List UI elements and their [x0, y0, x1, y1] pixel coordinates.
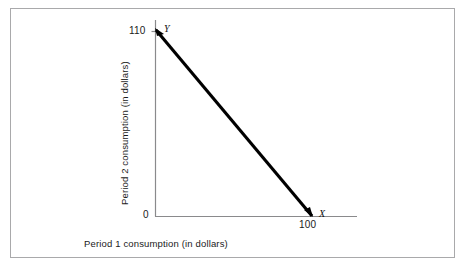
x-axis-title-wrapper: Period 1 consumption (in dollars): [0, 238, 466, 249]
point-label-y: Y: [164, 23, 170, 34]
y-axis-title: Period 2 consumption (in dollars): [119, 61, 130, 205]
x-axis-title: Period 1 consumption (in dollars): [84, 238, 228, 249]
figure-root: 110 0 100 Y X Period 2 consumption (in d…: [0, 0, 466, 274]
y-axis-tick-label-110: 110: [129, 25, 146, 36]
x-axis-tick-label-100: 100: [299, 219, 316, 230]
budget-line-y-endpoint: [155, 28, 164, 36]
plot-canvas: [0, 0, 466, 274]
y-axis-tick-label-0: 0: [143, 209, 149, 220]
point-label-x: X: [319, 208, 325, 219]
budget-line: [156, 30, 312, 216]
